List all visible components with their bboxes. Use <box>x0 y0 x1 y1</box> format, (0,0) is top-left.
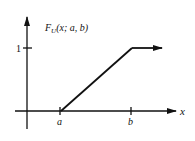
x-tick-label-a: a <box>57 116 62 127</box>
chart-svg: 1 a b x FU(x; a, b) <box>0 0 195 141</box>
y-tick-label-one: 1 <box>16 43 21 54</box>
x-axis-label: x <box>179 105 185 117</box>
uniform-cdf-chart: 1 a b x FU(x; a, b) <box>0 0 195 141</box>
cdf-ramp-line <box>61 48 132 111</box>
function-args: (x; a, b) <box>56 22 89 34</box>
x-tick-label-b: b <box>128 116 133 127</box>
function-title: FU(x; a, b) <box>44 22 89 35</box>
